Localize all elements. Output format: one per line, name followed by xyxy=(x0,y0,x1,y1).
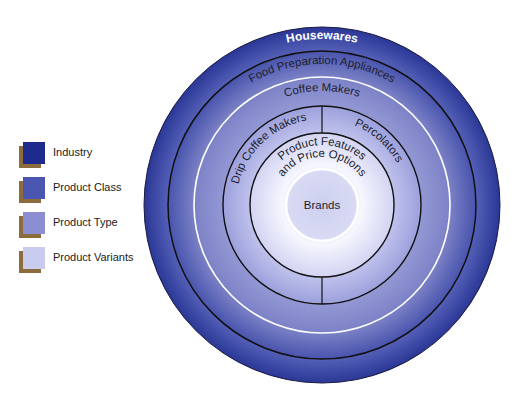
concentric-diagram: Housewares Food Preparation Appliances C… xyxy=(0,0,519,404)
label-brands: Brands xyxy=(304,199,341,211)
